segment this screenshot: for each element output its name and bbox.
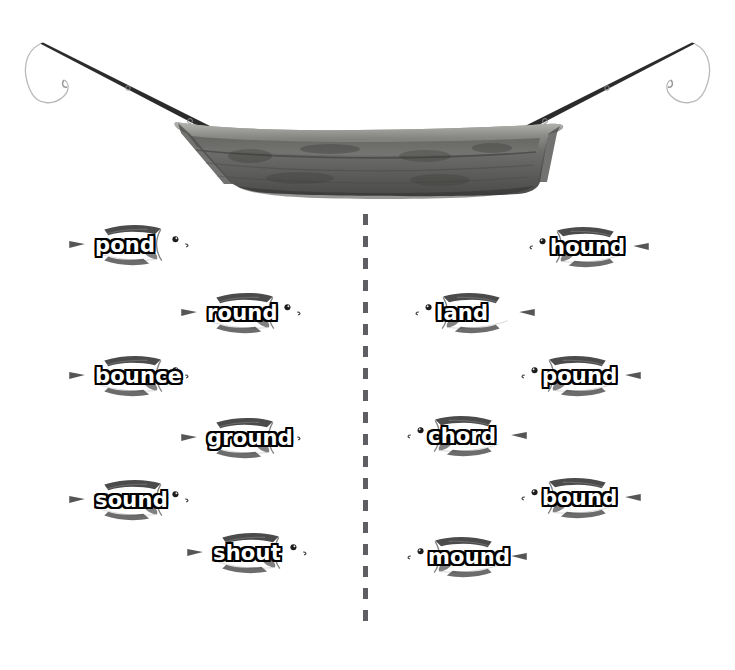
fish-card-hound[interactable]: hound	[526, 221, 678, 273]
fish-card-chord[interactable]: chord	[404, 410, 556, 462]
fish-card-pond[interactable]: pond	[40, 219, 192, 271]
center-dashed-divider	[363, 214, 368, 624]
fish-card-sound[interactable]: sound	[40, 474, 192, 526]
fish-word-label: pond	[95, 233, 155, 257]
fish-word-label: mound	[428, 545, 510, 569]
fish-word-label: hound	[550, 235, 625, 259]
fish-word-label: sound	[95, 488, 168, 512]
worksheet-canvas: pondroundbouncegroundsoundshout houndlan…	[0, 0, 735, 670]
fish-word-label: pound	[542, 364, 617, 388]
fish-word-label: shout	[213, 541, 281, 565]
fish-card-pound[interactable]: pound	[518, 350, 670, 402]
fish-card-bound[interactable]: bound	[518, 472, 670, 524]
rowboat	[174, 122, 563, 199]
fish-word-label: land	[436, 301, 488, 325]
fish-card-shout[interactable]: shout	[158, 527, 310, 579]
fish-word-label: round	[207, 301, 278, 325]
fish-word-label: bound	[542, 486, 617, 510]
fish-card-land[interactable]: land	[412, 287, 564, 339]
boat-and-rods-scene	[0, 0, 735, 215]
fish-word-label: bounce	[95, 364, 182, 388]
fish-card-ground[interactable]: ground	[152, 412, 304, 464]
fish-card-mound[interactable]: mound	[404, 531, 556, 583]
fish-card-bounce[interactable]: bounce	[40, 350, 192, 402]
fish-word-label: chord	[428, 424, 496, 448]
fish-word-label: ground	[207, 426, 293, 450]
fish-card-round[interactable]: round	[152, 287, 304, 339]
